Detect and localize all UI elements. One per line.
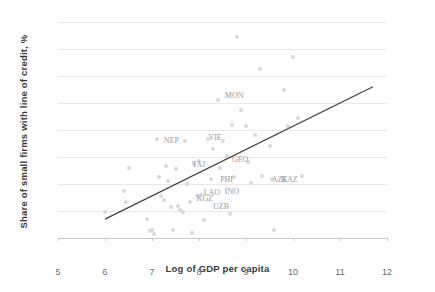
gridline	[58, 49, 387, 50]
data-point	[218, 166, 222, 170]
gridline	[58, 103, 387, 104]
data-point	[272, 228, 276, 232]
data-point	[260, 174, 264, 178]
x-tick-label: 6	[93, 268, 117, 277]
data-point	[253, 133, 257, 137]
data-point	[230, 123, 234, 127]
data-point	[174, 167, 178, 171]
data-point	[188, 200, 192, 204]
x-tick-mark	[246, 238, 247, 241]
point-label: PHI	[220, 176, 233, 184]
data-point	[228, 212, 232, 216]
data-point	[202, 218, 206, 222]
x-tick-label: 10	[281, 268, 305, 277]
data-point	[185, 182, 189, 186]
data-point	[155, 137, 159, 141]
gridline	[58, 130, 387, 131]
gridline	[58, 157, 387, 158]
scatter-chart: Share of small firms with line of credit…	[0, 0, 435, 292]
data-point	[171, 228, 175, 232]
point-label: KGZ	[197, 195, 213, 203]
point-label: INO	[225, 188, 239, 196]
point-label: TAJ	[192, 161, 205, 169]
data-point	[152, 232, 156, 236]
data-point	[291, 55, 295, 59]
gridline	[58, 211, 387, 212]
data-point	[296, 116, 300, 120]
data-point	[157, 175, 161, 179]
data-point	[145, 217, 149, 221]
data-point	[244, 124, 248, 128]
data-point	[181, 210, 185, 214]
x-tick-label: 12	[375, 268, 399, 277]
point-label: UZB	[213, 203, 229, 211]
gridline	[58, 22, 387, 23]
point-label: GEO	[232, 156, 248, 164]
data-point	[176, 204, 180, 208]
data-point	[124, 200, 128, 204]
point-label: KAZ	[281, 176, 297, 184]
data-point	[127, 166, 131, 170]
x-tick-label: 9	[234, 268, 258, 277]
x-tick-mark	[340, 238, 341, 241]
data-point	[286, 124, 290, 128]
x-tick-label: 5	[46, 268, 70, 277]
x-tick-mark	[199, 238, 200, 241]
gridline	[58, 184, 387, 185]
data-point	[122, 189, 126, 193]
point-label: VIE	[208, 134, 221, 142]
data-point	[211, 147, 215, 151]
gridline	[58, 76, 387, 77]
x-tick-label: 8	[187, 268, 211, 277]
data-point	[216, 98, 220, 102]
x-tick-label: 11	[328, 268, 352, 277]
point-label: MON	[225, 92, 244, 100]
data-point	[225, 154, 229, 158]
data-point	[164, 164, 168, 168]
x-tick-mark	[387, 238, 388, 241]
point-label: NEP	[164, 137, 179, 145]
data-point	[162, 198, 166, 202]
data-point	[258, 67, 262, 71]
x-tick-label: 7	[140, 268, 164, 277]
data-point	[282, 88, 286, 92]
data-point	[300, 174, 304, 178]
data-point	[268, 144, 272, 148]
data-point	[190, 231, 194, 235]
data-point	[183, 139, 187, 143]
x-tick-mark	[152, 238, 153, 241]
x-tick-mark	[58, 238, 59, 241]
data-point	[169, 205, 173, 209]
plot-area: 01020304050607080 56789101112 MONNEPVIET…	[58, 22, 387, 238]
data-point	[249, 181, 253, 185]
data-point	[239, 108, 243, 112]
gridline	[58, 238, 387, 239]
data-point	[103, 210, 107, 214]
data-point	[209, 177, 213, 181]
data-point	[235, 35, 239, 39]
data-point	[166, 179, 170, 183]
y-axis-title: Share of small firms with line of credit…	[18, 12, 29, 252]
x-tick-mark	[293, 238, 294, 241]
x-tick-mark	[105, 238, 106, 241]
